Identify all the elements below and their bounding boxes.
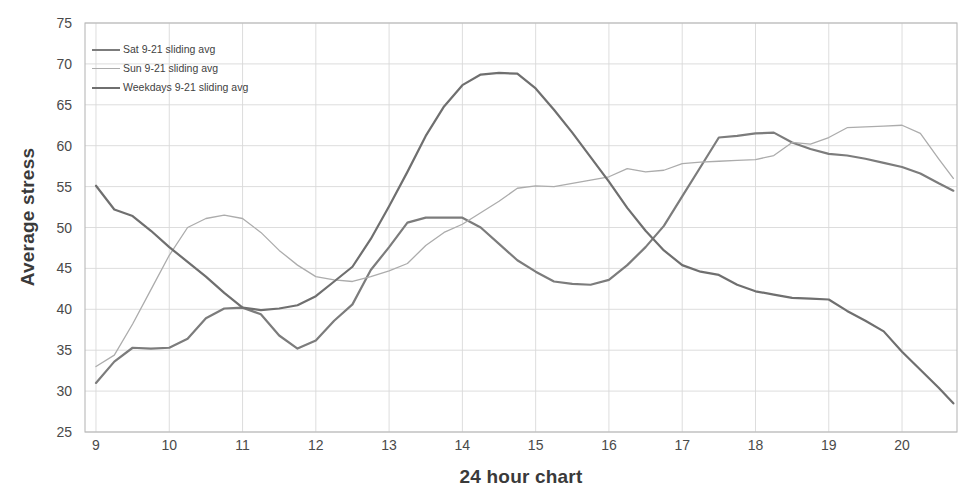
- series-line: [96, 73, 953, 403]
- legend-item-label: Weekdays 9-21 sliding avg: [123, 82, 248, 93]
- y-axis-tick-label: 40: [26, 301, 72, 317]
- x-axis-tick-label: 11: [223, 437, 263, 453]
- x-axis-tick-label: 10: [149, 437, 189, 453]
- x-axis-tick-label: 18: [735, 437, 775, 453]
- x-axis-tick-label: 12: [296, 437, 336, 453]
- x-axis-tick-label: 9: [76, 437, 116, 453]
- y-axis-tick-label: 70: [26, 56, 72, 72]
- legend-item-label: Sun 9-21 sliding avg: [123, 63, 218, 74]
- legend-line-swatch: [92, 68, 120, 69]
- x-axis-title: 24 hour chart: [85, 466, 957, 488]
- x-axis-tick-label: 19: [809, 437, 849, 453]
- y-axis-tick-label: 60: [26, 138, 72, 154]
- x-axis-tick-label: 16: [589, 437, 629, 453]
- x-axis-tick-label: 15: [516, 437, 556, 453]
- x-axis-tick-label: 17: [662, 437, 702, 453]
- y-axis-tick-label: 65: [26, 97, 72, 113]
- legend-line-swatch: [92, 49, 120, 51]
- y-axis-tick-label: 25: [26, 424, 72, 440]
- chart-container: Average stress 24 hour chart 75706560555…: [0, 0, 979, 504]
- x-axis-tick-label: 14: [442, 437, 482, 453]
- y-axis-tick-label: 45: [26, 260, 72, 276]
- legend-item: Weekdays 9-21 sliding avg: [92, 78, 248, 97]
- y-axis-tick-label: 55: [26, 179, 72, 195]
- x-axis-tick-label: 20: [882, 437, 922, 453]
- legend-item: Sun 9-21 sliding avg: [92, 59, 248, 78]
- y-axis-tick-label: 35: [26, 342, 72, 358]
- y-axis-tick-label: 30: [26, 383, 72, 399]
- y-axis-tick-label: 50: [26, 220, 72, 236]
- legend-line-swatch: [92, 87, 120, 89]
- legend-item-label: Sat 9-21 sliding avg: [123, 44, 215, 55]
- chart-legend: Sat 9-21 sliding avgSun 9-21 sliding avg…: [92, 40, 248, 97]
- x-axis-tick-label: 13: [369, 437, 409, 453]
- series-line: [96, 133, 953, 383]
- legend-item: Sat 9-21 sliding avg: [92, 40, 248, 59]
- series-line: [96, 125, 953, 366]
- y-axis-tick-label: 75: [26, 15, 72, 31]
